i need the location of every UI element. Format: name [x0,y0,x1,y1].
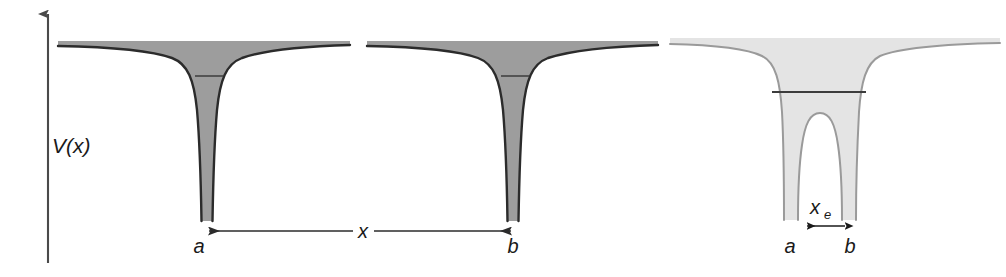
panel-isolated-well-a [58,41,350,221]
separation-distance-label: x [357,220,369,242]
well-b-outline-left [367,46,508,221]
double-well-left-minimum-label: a [784,235,795,257]
potential-energy-axis-label: V(x) [52,134,91,157]
double-well-outline-outer-left [670,44,784,220]
well-b-shaded-region [367,41,658,221]
equilibrium-separation-subscript: e [824,207,831,222]
potential-well-figure: V(x) a b x a b x e [0,0,1006,277]
panel-isolated-well-b [367,41,658,221]
well-b-outline-right [519,45,659,221]
double-well-right-minimum-label: b [844,235,855,257]
equilibrium-separation-label: x [809,196,821,218]
panel-merged-double-well [670,38,1000,220]
well-a-outline-right [213,45,351,221]
well-b-minimum-label: b [507,235,518,257]
double-well-outline-outer-right [856,43,1000,220]
double-well-central-barrier-outline [798,113,842,220]
well-a-minimum-label: a [193,235,204,257]
well-a-shaded-region [58,41,350,221]
